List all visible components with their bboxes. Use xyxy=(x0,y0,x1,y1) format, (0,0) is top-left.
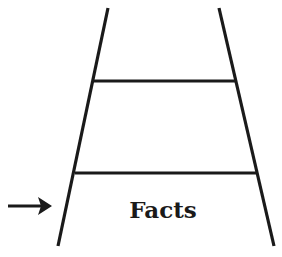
ladder-diagram: Facts xyxy=(0,0,282,257)
ladder-right-rail xyxy=(219,8,274,246)
arrow-right-icon xyxy=(8,197,52,215)
facts-label: Facts xyxy=(100,190,226,230)
